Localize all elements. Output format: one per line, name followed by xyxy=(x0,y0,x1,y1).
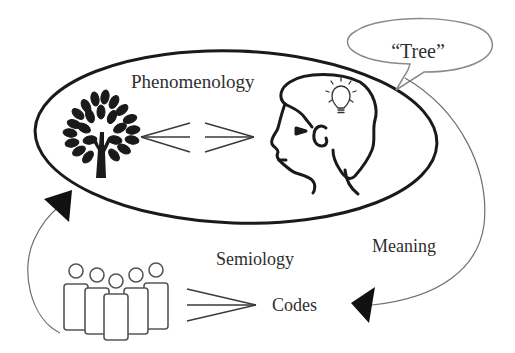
lightbulb-icon xyxy=(326,77,356,113)
speech-text: “Tree” xyxy=(391,40,445,62)
person-icon xyxy=(104,274,128,340)
double-arrow-icon xyxy=(141,123,254,152)
human-head-profile-icon xyxy=(272,75,376,195)
phenomenology-label: Phenomenology xyxy=(131,71,255,92)
convergence-arrow-icon xyxy=(187,289,256,321)
diagram-canvas: “Tree” Phenomenology xyxy=(0,0,515,353)
feedback-arc xyxy=(28,206,60,333)
codes-label: Codes xyxy=(272,295,317,315)
meaning-label: Meaning xyxy=(372,236,436,256)
group-of-people-icon xyxy=(64,263,168,340)
semiology-label: Semiology xyxy=(216,249,294,269)
meaning-arc xyxy=(372,78,485,305)
tree-icon xyxy=(62,89,140,178)
meaning-arrowhead xyxy=(351,287,375,323)
